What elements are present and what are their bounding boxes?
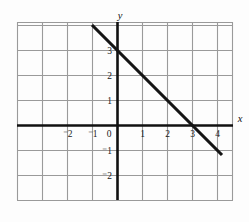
x-tick-label-2: 2: [165, 129, 170, 139]
x-axis-label: x: [237, 113, 243, 124]
graph-background: [0, 0, 249, 222]
y-tick-label--1: ⁻1: [102, 146, 112, 156]
x-tick-label-3: 3: [190, 129, 195, 139]
x-tick-label--1: ⁻1: [88, 129, 98, 139]
x-tick-label--2: ⁻2: [63, 129, 73, 139]
graph-canvas: ⁻2 ⁻1 0 1 2 3 4 3 2 1 ⁻1 ⁻2 y x: [0, 0, 249, 222]
coordinate-graph-figure: ⁻2 ⁻1 0 1 2 3 4 3 2 1 ⁻1 ⁻2 y x: [0, 0, 249, 222]
y-axis-label: y: [117, 10, 123, 21]
y-tick-label-2: 2: [107, 71, 112, 81]
x-tick-label-1: 1: [140, 129, 145, 139]
x-tick-label-4: 4: [215, 129, 220, 139]
x-tick-label-0: 0: [107, 129, 112, 139]
y-tick-label-3: 3: [107, 46, 112, 56]
y-tick-label-1: 1: [107, 96, 112, 106]
y-tick-label--2: ⁻2: [102, 171, 112, 181]
